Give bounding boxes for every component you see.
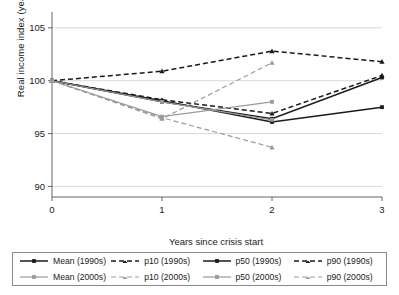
legend-label: p90 (1990s) <box>327 257 373 266</box>
legend-label: Mean (2000s) <box>53 273 106 282</box>
legend-label: p10 (1990s) <box>144 257 190 266</box>
y-axis-ticks: 9095100105 <box>29 22 52 192</box>
legend-swatch-icon <box>110 256 140 266</box>
data-point-marker <box>160 100 164 104</box>
x-axis-ticks: 0123 <box>49 197 384 215</box>
y-tick-label: 90 <box>34 181 45 192</box>
legend-swatch-icon <box>19 256 49 266</box>
data-point-marker <box>270 118 274 122</box>
legend-swatch-icon <box>202 272 232 282</box>
y-tick-label: 105 <box>29 22 45 33</box>
legend-item[interactable]: p10 (2000s) <box>108 272 199 282</box>
legend-swatch-icon <box>293 272 323 282</box>
x-tick-label: 3 <box>379 204 384 215</box>
data-point-marker <box>380 105 384 109</box>
y-tick-label: 95 <box>34 128 45 139</box>
y-tick-label: 100 <box>29 75 45 86</box>
data-point-marker <box>379 73 384 78</box>
legend-item[interactable]: Mean (2000s) <box>17 272 108 282</box>
legend-item[interactable]: p90 (1990s) <box>291 256 382 266</box>
legend-item[interactable]: p50 (2000s) <box>200 272 291 282</box>
series-p50-1990s <box>50 79 384 124</box>
legend-row: Mean (1990s)p10 (1990s)p50 (1990s)p90 (1… <box>13 253 386 269</box>
plot-area: 9095100105 0123 <box>0 0 399 240</box>
x-axis-label: Years since crisis start <box>52 236 380 247</box>
legend-label: p90 (2000s) <box>327 273 373 282</box>
series-line <box>52 51 382 81</box>
legend-label: p10 (2000s) <box>144 273 190 282</box>
legend-label: p50 (2000s) <box>236 273 282 282</box>
chart-legend: Mean (1990s)p10 (1990s)p50 (1990s)p90 (1… <box>12 252 387 286</box>
x-tick-label: 1 <box>159 204 164 215</box>
legend-label: p50 (1990s) <box>236 257 282 266</box>
legend-swatch-icon <box>110 272 140 282</box>
data-point-marker <box>269 60 274 65</box>
gridlines <box>52 28 382 187</box>
legend-row: Mean (2000s)p10 (2000s)p50 (2000s)p90 (2… <box>13 269 386 285</box>
legend-item[interactable]: Mean (1990s) <box>17 256 108 266</box>
legend-swatch-icon <box>202 256 232 266</box>
data-series-layer <box>49 49 384 150</box>
legend-item[interactable]: p10 (1990s) <box>108 256 199 266</box>
legend-item[interactable]: p90 (2000s) <box>291 272 382 282</box>
series-line <box>52 75 382 113</box>
x-tick-label: 2 <box>269 204 274 215</box>
legend-swatch-icon <box>19 272 49 282</box>
chart-figure: Real income index (year 0 = 100) 9095100… <box>0 0 399 295</box>
data-point-marker <box>270 100 274 104</box>
x-tick-label: 0 <box>49 204 54 215</box>
series-line <box>52 81 382 122</box>
axes <box>52 12 382 197</box>
legend-label: Mean (1990s) <box>53 257 106 266</box>
legend-swatch-icon <box>293 256 323 266</box>
series-p90-1990s <box>49 49 384 83</box>
legend-item[interactable]: p50 (1990s) <box>200 256 291 266</box>
